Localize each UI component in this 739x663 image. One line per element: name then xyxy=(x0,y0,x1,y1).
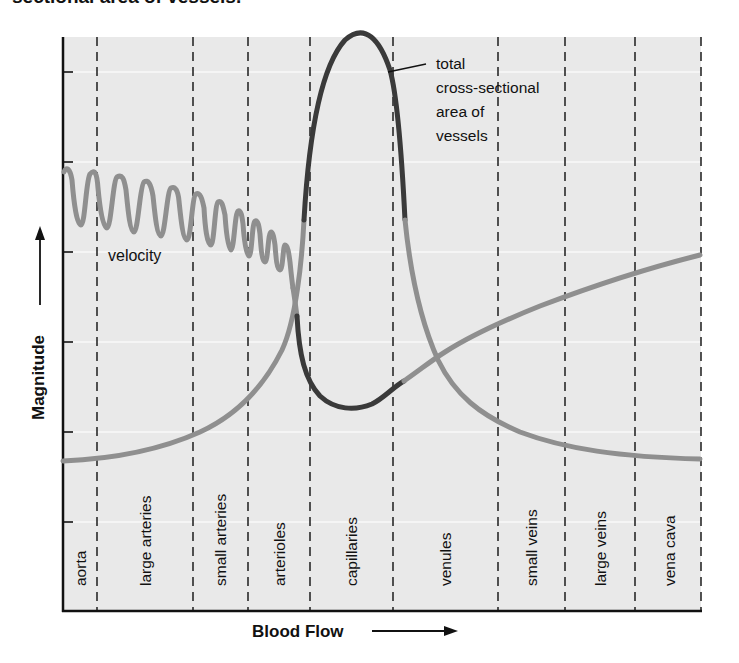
region-label-venules: venules xyxy=(437,532,454,586)
blood-flow-diagram: total cross-sectional area of vessels ve… xyxy=(0,0,739,663)
area-annotation-line-3: area of xyxy=(436,103,485,120)
area-annotation-line-1: total xyxy=(436,55,465,72)
area-annotation-line-4: vessels xyxy=(436,127,488,144)
y-axis-label: Magnitude xyxy=(29,335,48,420)
x-axis-arrow-icon xyxy=(372,626,458,636)
x-axis-label: Blood Flow xyxy=(252,622,344,641)
region-label-large-veins: large veins xyxy=(592,511,609,586)
velocity-annotation: velocity xyxy=(108,247,161,264)
region-label-small-arteries: small arteries xyxy=(212,494,229,586)
y-axis-arrow-icon xyxy=(35,226,45,305)
region-label-vena-cava: vena cava xyxy=(661,515,678,586)
region-label-large-arteries: large arteries xyxy=(137,495,154,586)
area-annotation-line-2: cross-sectional xyxy=(436,79,539,96)
region-label-aorta: aorta xyxy=(72,550,89,586)
region-label-capillaries: capillaries xyxy=(343,517,360,586)
region-label-small-veins: small veins xyxy=(523,509,540,586)
region-label-arterioles: arterioles xyxy=(271,522,288,586)
